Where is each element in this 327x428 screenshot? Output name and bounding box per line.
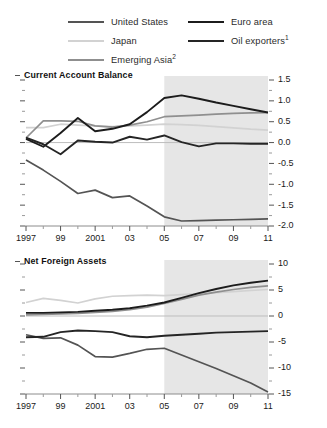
legend-label: Euro area — [231, 17, 273, 27]
y-axis-tick-label: 10 — [278, 258, 288, 268]
legend-line-swatch-icon — [68, 40, 104, 42]
y-axis-tick-label: -15 — [278, 388, 291, 398]
y-axis-tick-label: 0.5 — [278, 116, 291, 126]
x-axis-tick-label: 2001 — [85, 233, 105, 243]
legend-column-left: United StatesJapanEmerging Asia2 — [68, 12, 176, 69]
x-axis-tick-label: 03 — [125, 401, 135, 411]
y-axis-tick-label: 5 — [278, 284, 283, 294]
x-axis-tick-label: 09 — [228, 233, 238, 243]
legend-entry[interactable]: United States — [68, 12, 176, 31]
x-axis-tick-label: 11 — [263, 233, 272, 243]
y-axis-tick-label: -0.5 — [278, 158, 294, 168]
legend-footnote-marker: 2 — [172, 52, 176, 59]
x-axis-tick-label: 11 — [263, 401, 272, 411]
legend-line-swatch-icon — [188, 40, 224, 42]
x-axis-tick-label: 1997 — [16, 401, 36, 411]
forecast-shaded-region — [164, 76, 268, 226]
y-axis-tick-label: 1.0 — [278, 95, 291, 105]
y-axis-tick-label: -2.0 — [278, 220, 294, 230]
legend-label: United States — [111, 17, 168, 27]
legend-label: Japan — [111, 36, 137, 46]
y-axis-tick-label: 0 — [278, 310, 283, 320]
plot-current-account-balance: 1.51.00.50.0-0.5-1.0-1.5-2.0199799200103… — [0, 68, 327, 248]
panel-current-account-balance: Current Account Balance 1.51.00.50.0-0.5… — [0, 68, 327, 248]
legend-line-swatch-icon — [188, 21, 224, 23]
legend-line-swatch-icon — [68, 59, 104, 61]
x-axis-tick-label: 09 — [228, 401, 238, 411]
legend-entry[interactable]: Japan — [68, 31, 176, 50]
legend-label: Oil exporters1 — [231, 36, 289, 46]
x-axis-tick-label: 99 — [56, 233, 66, 243]
y-axis-tick-label: -1.5 — [278, 200, 294, 210]
legend-column-right: Euro areaOil exporters1 — [188, 12, 289, 50]
y-axis-tick-label: -1.0 — [278, 179, 294, 189]
x-axis-tick-label: 03 — [125, 233, 135, 243]
x-axis-tick-label: 05 — [159, 233, 169, 243]
legend-line-swatch-icon — [68, 21, 104, 23]
y-axis-tick-label: 1.5 — [278, 74, 291, 84]
y-axis-tick-label: 0.0 — [278, 137, 291, 147]
chart-legend: United StatesJapanEmerging Asia2 Euro ar… — [0, 0, 327, 68]
legend-entry[interactable]: Emerging Asia2 — [68, 50, 176, 69]
legend-label: Emerging Asia2 — [111, 55, 176, 65]
legend-entry[interactable]: Oil exporters1 — [188, 31, 289, 50]
forecast-shaded-region — [164, 260, 268, 394]
x-axis-tick-label: 1997 — [16, 233, 36, 243]
x-axis-tick-label: 05 — [159, 401, 169, 411]
legend-entry[interactable]: Euro area — [188, 12, 289, 31]
x-axis-tick-label: 2001 — [85, 401, 105, 411]
y-axis-tick-label: -10 — [278, 362, 291, 372]
x-axis-tick-label: 07 — [194, 401, 204, 411]
y-axis-tick-label: -5 — [278, 336, 286, 346]
plot-net-foreign-assets: 1050-5-10-1519979920010305070911 — [0, 254, 327, 428]
legend-footnote-marker: 1 — [285, 33, 289, 40]
x-axis-tick-label: 99 — [56, 401, 66, 411]
x-axis-tick-label: 07 — [194, 233, 204, 243]
global-imbalances-figure: United StatesJapanEmerging Asia2 Euro ar… — [0, 0, 327, 428]
panel-net-foreign-assets: Net Foreign Assets 1050-5-10-15199799200… — [0, 254, 327, 428]
